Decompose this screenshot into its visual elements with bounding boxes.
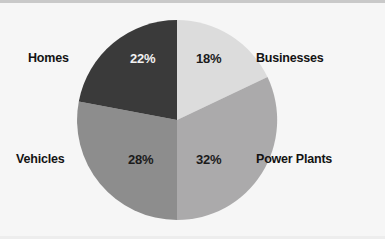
pie-label-businesses: Businesses <box>256 51 323 65</box>
pie-chart-graphic <box>76 19 278 221</box>
pie-value-homes: 22% <box>130 51 155 66</box>
bottom-edge-band <box>0 236 385 239</box>
pie-label-vehicles: Vehicles <box>16 152 64 166</box>
pie-value-businesses: 18% <box>196 51 221 66</box>
pie-value-vehicles: 28% <box>128 152 153 167</box>
pie-value-power-plants: 32% <box>196 152 221 167</box>
pie-chart-figure: Homes Vehicles Businesses Power Plants 2… <box>0 0 385 239</box>
pie-label-homes: Homes <box>28 51 69 65</box>
pie-label-power-plants: Power Plants <box>256 152 332 166</box>
top-edge-band <box>0 0 385 3</box>
